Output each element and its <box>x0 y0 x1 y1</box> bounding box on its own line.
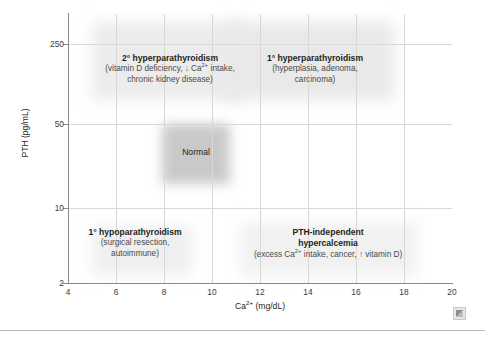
annotation-title: 2° hyperparathyroidism <box>80 53 260 64</box>
y-tick-label-10: 10 <box>32 203 64 213</box>
x-axis-line <box>68 283 453 284</box>
annotation-subline-2: chronic kidney disease) <box>80 75 260 86</box>
x-tick-label-20: 20 <box>437 287 467 297</box>
annotation-subline-2: carcinoma) <box>240 75 390 86</box>
y-axis-line <box>68 13 69 284</box>
x-tick-label-14: 14 <box>293 287 323 297</box>
x-tick-label-8: 8 <box>149 287 179 297</box>
x-tick-label-16: 16 <box>341 287 371 297</box>
y-tick-label-250: 250 <box>32 39 64 49</box>
y-axis-title: PTH (pg/mL) <box>20 78 30 188</box>
annotation-pth-independent-hypercalcemia: PTH-independent hypercalcemia (excess Ca… <box>228 227 428 261</box>
annotation-subline-1: (surgical resection, <box>60 238 210 249</box>
plot-area: 2° hyperparathyroidism (vitamin D defici… <box>68 14 452 283</box>
annotation-primary-hypoparathyroidism: 1° hypoparathyroidism (surgical resectio… <box>60 227 210 260</box>
gridline-y-50 <box>68 124 452 125</box>
annotation-title: 1° hyperparathyroidism <box>240 53 390 64</box>
x-tick-label-18: 18 <box>389 287 419 297</box>
x-tick-label-12: 12 <box>245 287 275 297</box>
x-axis-title: Ca2+ (mg/dL) <box>68 301 452 311</box>
annotation-title: 1° hypoparathyroidism <box>60 227 210 238</box>
y-tick-label-50: 50 <box>32 119 64 129</box>
page-bottom-rule <box>0 330 485 331</box>
annotation-title-line2: hypercalcemia <box>228 238 428 249</box>
watermark-glyph <box>456 310 463 317</box>
annotation-title: PTH-independent <box>228 227 428 238</box>
gridline-y-250 <box>68 44 452 45</box>
gridline-y-10 <box>68 208 452 209</box>
source-watermark-icon <box>453 307 466 320</box>
annotation-title: Normal <box>164 147 228 158</box>
x-tick-label-4: 4 <box>53 287 83 297</box>
x-tick-label-6: 6 <box>101 287 131 297</box>
annotation-primary-hyperparathyroidism: 1° hyperparathyroidism (hyperplasia, ade… <box>240 53 390 86</box>
annotation-secondary-hyperparathyroidism: 2° hyperparathyroidism (vitamin D defici… <box>80 53 260 86</box>
annotation-subline-2: autoimmune) <box>60 249 210 260</box>
pth-calcium-diagnostic-chart: 2° hyperparathyroidism (vitamin D defici… <box>0 0 485 338</box>
annotation-subline-1: (hyperplasia, adenoma, <box>240 64 390 75</box>
annotation-normal: Normal <box>164 147 228 158</box>
annotation-subline-1: (vitamin D deficiency, ↓ Ca2+ intake, <box>80 64 260 75</box>
x-tick-label-10: 10 <box>197 287 227 297</box>
annotation-subline-1: (excess Ca2+ intake, cancer, ↑ vitamin D… <box>228 250 428 261</box>
